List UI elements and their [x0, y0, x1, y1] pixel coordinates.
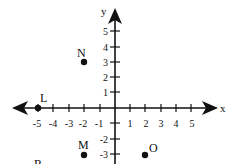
- svg-text:3: 3: [159, 118, 164, 129]
- svg-text:-2: -2: [100, 134, 108, 145]
- svg-text:-3: -3: [65, 118, 73, 129]
- x-axis-label: x: [220, 102, 226, 114]
- svg-text:4: 4: [174, 118, 179, 129]
- point-O: O: [142, 141, 158, 158]
- point-N: N: [77, 46, 87, 65]
- svg-text:2: 2: [144, 118, 149, 129]
- svg-text:3: 3: [103, 57, 108, 68]
- svg-text:-3: -3: [100, 149, 108, 160]
- point-label: R: [34, 157, 42, 164]
- point-label: O: [149, 141, 158, 155]
- point-marker: [142, 152, 148, 158]
- svg-text:4: 4: [103, 42, 108, 53]
- point-marker: [81, 152, 87, 158]
- svg-text:-1: -1: [95, 118, 103, 129]
- y-axis-label: y: [101, 5, 107, 17]
- svg-text:1: 1: [128, 118, 133, 129]
- svg-text:-2: -2: [79, 118, 87, 129]
- svg-text:1: 1: [103, 87, 108, 98]
- point-label: N: [77, 46, 86, 60]
- svg-text:2: 2: [103, 72, 108, 83]
- svg-text:-4: -4: [49, 118, 57, 129]
- point-label: M: [78, 138, 89, 152]
- point-label: L: [40, 91, 47, 105]
- point-marker: [35, 105, 41, 111]
- svg-text:5: 5: [190, 118, 195, 129]
- point-R: R: [34, 157, 42, 164]
- coordinate-plane: y x -5 -4 -3 -2 -1 1 2 3 4 5 5 4 3 2 1 -…: [0, 0, 229, 164]
- svg-text:-5: -5: [33, 118, 41, 129]
- svg-text:5: 5: [103, 26, 108, 37]
- point-M: M: [78, 138, 89, 158]
- y-tick-labels: 5 4 3 2 1 -2 -3: [100, 26, 108, 160]
